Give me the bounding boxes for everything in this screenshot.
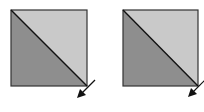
left-square-diagram [0,0,102,112]
right-square-diagram [102,0,204,112]
left-panel [0,0,102,112]
right-panel [102,0,204,112]
